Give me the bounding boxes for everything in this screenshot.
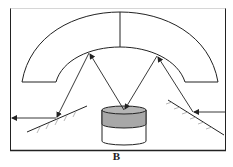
diagram-canvas xyxy=(0,0,233,167)
left-mirror xyxy=(27,106,87,133)
sample-cylinder xyxy=(102,106,146,145)
figure-label: B xyxy=(0,150,233,162)
right-mirror xyxy=(166,100,224,135)
